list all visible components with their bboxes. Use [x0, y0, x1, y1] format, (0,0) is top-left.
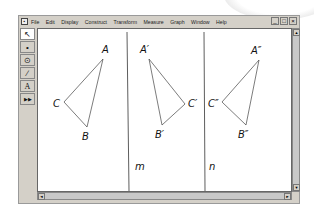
sketch-canvas[interactable]: A C B A′ C′ B′ A″ C″ B″ m n [37, 28, 292, 192]
selection-arrow-tool[interactable]: ↖ [20, 28, 35, 40]
horizontal-scrollbar[interactable]: ◄ ► [37, 192, 292, 200]
geometry-drawing: A C B A′ C′ B′ A″ C″ B″ m n [38, 29, 291, 191]
label-b-prime: B′ [155, 129, 165, 140]
window-controls: _ □ × [271, 17, 297, 25]
label-c-prime: C′ [188, 98, 198, 109]
text-tool[interactable]: A [20, 80, 35, 92]
menu-edit[interactable]: Edit [46, 19, 55, 25]
point-icon: • [26, 43, 29, 52]
reflection-line-m[interactable] [127, 32, 129, 191]
label-c: C [53, 98, 60, 109]
label-a: A [101, 44, 109, 55]
scroll-left-button[interactable]: ◄ [38, 193, 45, 200]
segment-icon: ∕ [27, 69, 28, 78]
circle-icon: ⊙ [24, 56, 31, 65]
menubar: ▪ File Edit Display Construct Transform … [19, 16, 299, 27]
scroll-down-button[interactable]: ▼ [293, 184, 300, 191]
menu-file[interactable]: File [31, 19, 39, 25]
label-line-n: n [209, 161, 215, 172]
restore-button[interactable]: □ [280, 17, 288, 25]
scroll-up-button[interactable]: ▲ [293, 29, 300, 36]
scroll-right-button[interactable]: ► [284, 193, 291, 200]
label-a-prime: A′ [139, 44, 150, 55]
triangle-a-double-prime[interactable] [222, 60, 259, 125]
minimize-button[interactable]: _ [271, 17, 279, 25]
point-tool[interactable]: • [20, 41, 35, 53]
document-icon[interactable]: ▪ [21, 18, 28, 25]
label-line-m: m [135, 161, 145, 172]
label-b: B [82, 131, 89, 142]
label-a-double-prime: A″ [250, 45, 262, 56]
menu-measure[interactable]: Measure [143, 19, 163, 25]
menu-construct[interactable]: Construct [85, 19, 107, 25]
arrow-icon: ↖ [24, 30, 31, 39]
menu-display[interactable]: Display [61, 19, 78, 25]
custom-tool[interactable]: ▶▶ [20, 93, 35, 105]
close-button[interactable]: × [289, 17, 297, 25]
toolbox: ↖ • ⊙ ∕ A ▶▶ [20, 28, 36, 106]
label-c-double-prime: C″ [208, 98, 219, 109]
triangle-a-prime[interactable] [149, 59, 185, 125]
text-icon: A [25, 82, 31, 91]
vertical-scrollbar[interactable]: ▲ ▼ [292, 28, 300, 192]
triangle-abc[interactable] [64, 59, 103, 127]
custom-tool-icon: ▶▶ [24, 96, 32, 102]
menu-window[interactable]: Window [191, 19, 209, 25]
menu-help[interactable]: Help [216, 19, 227, 25]
straightedge-tool[interactable]: ∕ [20, 67, 35, 79]
reflection-line-n[interactable] [204, 32, 205, 191]
label-b-double-prime: B″ [238, 129, 249, 140]
compass-tool[interactable]: ⊙ [20, 54, 35, 66]
menu-transform[interactable]: Transform [114, 19, 137, 25]
menu-graph[interactable]: Graph [170, 19, 184, 25]
sketchpad-window: ▪ File Edit Display Construct Transform … [18, 15, 300, 204]
